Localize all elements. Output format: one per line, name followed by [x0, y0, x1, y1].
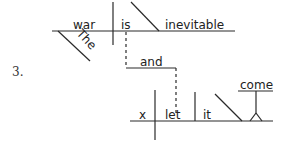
main-verb-word: is — [121, 18, 131, 32]
main-complement-slash — [131, 2, 159, 31]
second-subject-word: x — [139, 108, 146, 122]
second-object-word: it — [203, 108, 211, 122]
pedestal-foot-left — [250, 113, 256, 121]
sentence-diagram: 3. war is inevitable The and x let it co… — [0, 0, 290, 150]
conjunction-word: and — [140, 55, 163, 69]
pedestal-foot-right — [256, 113, 262, 121]
second-verb-word: let — [165, 108, 181, 122]
second-complement-slash — [215, 94, 242, 121]
main-complement-word: inevitable — [165, 18, 224, 32]
pedestal-word: come — [240, 78, 273, 92]
item-number: 3. — [12, 65, 23, 79]
